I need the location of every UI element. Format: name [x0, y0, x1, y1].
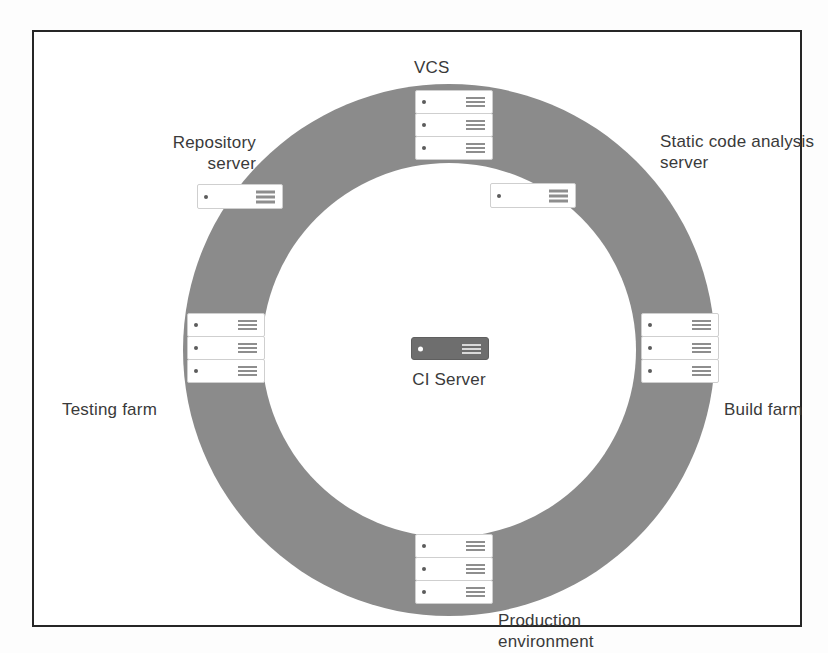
server-vent-bars [466, 143, 485, 153]
server-status-dot [422, 590, 426, 594]
node-ci-server[interactable] [411, 337, 489, 360]
server-icon [415, 136, 493, 160]
server-icon [415, 557, 493, 581]
server-status-dot [648, 323, 652, 327]
server-status-dot [194, 346, 198, 350]
diagram-frame: VCS Repository server Static code analys… [32, 30, 802, 627]
server-stack-icon [187, 313, 265, 383]
server-status-dot [497, 194, 501, 198]
server-vent-bars [462, 344, 481, 354]
server-vent-bars [692, 343, 711, 353]
server-vent-bars [466, 564, 485, 574]
server-vent-bars [466, 97, 485, 107]
server-icon [187, 359, 265, 383]
server-vent-bars [238, 343, 257, 353]
server-icon [415, 580, 493, 604]
server-vent-bars [256, 190, 275, 203]
server-icon [187, 336, 265, 360]
node-repository-server[interactable] [197, 184, 283, 209]
node-build-farm[interactable] [641, 313, 719, 383]
label-ci-server: CI Server [384, 369, 514, 390]
node-vcs[interactable] [415, 90, 493, 160]
server-vent-bars [238, 366, 257, 376]
server-stack-icon [641, 313, 719, 383]
server-icon [415, 113, 493, 137]
label-build-farm: Build farm [724, 399, 828, 420]
server-stack-icon [415, 534, 493, 604]
server-icon [187, 313, 265, 337]
server-status-dot [422, 567, 426, 571]
server-stack-icon [415, 90, 493, 160]
server-status-dot [422, 146, 426, 150]
label-static-code-analysis-server: Static code analysis server [660, 131, 828, 173]
server-vent-bars [466, 120, 485, 130]
server-vent-bars [692, 366, 711, 376]
server-status-dot [648, 346, 652, 350]
server-status-dot [418, 346, 423, 351]
server-vent-bars [466, 587, 485, 597]
server-icon [415, 90, 493, 114]
server-icon [490, 183, 576, 208]
node-static-code-analysis-server[interactable] [490, 183, 576, 208]
server-vent-bars [238, 320, 257, 330]
label-production-environment: Production environment [498, 610, 698, 652]
server-vent-bars [549, 189, 568, 202]
server-status-dot [422, 123, 426, 127]
node-testing-farm[interactable] [187, 313, 265, 383]
server-status-dot [204, 195, 208, 199]
server-status-dot [648, 369, 652, 373]
server-status-dot [194, 323, 198, 327]
node-production-environment[interactable] [415, 534, 493, 604]
server-icon [197, 184, 283, 209]
label-testing-farm: Testing farm [62, 399, 212, 420]
diagram-canvas: VCS Repository server Static code analys… [0, 0, 828, 653]
server-icon [415, 534, 493, 558]
server-status-dot [422, 100, 426, 104]
server-icon [641, 336, 719, 360]
server-vent-bars [692, 320, 711, 330]
server-vent-bars [466, 541, 485, 551]
server-icon [411, 337, 489, 360]
server-status-dot [194, 369, 198, 373]
server-icon [641, 359, 719, 383]
label-repository-server: Repository server [106, 132, 256, 174]
server-status-dot [422, 544, 426, 548]
server-icon [641, 313, 719, 337]
label-vcs: VCS [414, 57, 534, 78]
